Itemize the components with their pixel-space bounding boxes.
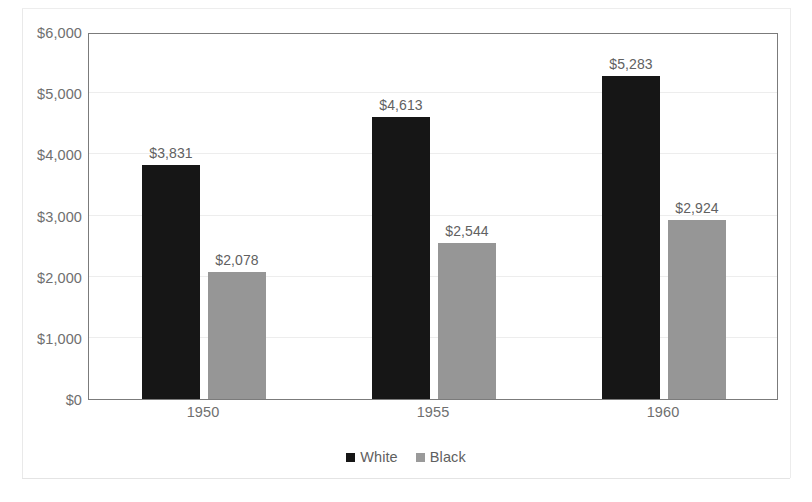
bar-value-label: $2,924 <box>675 200 718 216</box>
bar-chart: $0$1,000$2,000$3,000$4,000$5,000$6,000 $… <box>0 0 812 502</box>
legend-label: Black <box>430 449 466 465</box>
y-axis-tick-label: $3,000 <box>4 209 82 225</box>
x-axis-tick-label: 1950 <box>187 404 220 420</box>
bar-value-label: $4,613 <box>379 97 422 113</box>
page-edge-right <box>790 8 791 478</box>
x-axis-tick-label: 1960 <box>647 404 680 420</box>
bar-value-label: $2,544 <box>445 223 488 239</box>
page-edge-bottom <box>22 478 790 479</box>
bar-white-1950 <box>142 165 200 399</box>
y-axis-tick-label: $0 <box>4 392 82 408</box>
y-axis-tick-label: $2,000 <box>4 270 82 286</box>
gridline <box>89 92 777 93</box>
y-axis-tick-label: $5,000 <box>4 86 82 102</box>
bar-value-label: $5,283 <box>609 56 652 72</box>
x-axis-tick-label: 1955 <box>417 404 450 420</box>
legend-item-white[interactable]: White <box>346 449 398 465</box>
chart-legend: WhiteBlack <box>0 449 812 465</box>
legend-swatch-icon <box>416 453 425 462</box>
bar-value-label: $3,831 <box>149 145 192 161</box>
legend-item-black[interactable]: Black <box>416 449 466 465</box>
bar-black-1950 <box>208 272 266 399</box>
y-axis-tick-label: $1,000 <box>4 331 82 347</box>
y-axis-tick-label: $4,000 <box>4 147 82 163</box>
bar-white-1960 <box>602 76 660 399</box>
bar-black-1960 <box>668 220 726 399</box>
bar-black-1955 <box>438 243 496 399</box>
page-edge-top <box>22 8 790 9</box>
plot-area: $3,831$2,078$4,613$2,544$5,283$2,924 <box>88 33 778 400</box>
bar-value-label: $2,078 <box>215 252 258 268</box>
bar-white-1955 <box>372 117 430 399</box>
y-axis: $0$1,000$2,000$3,000$4,000$5,000$6,000 <box>0 33 82 400</box>
legend-swatch-icon <box>346 453 355 462</box>
y-axis-tick-label: $6,000 <box>4 25 82 41</box>
x-axis: 195019551960 <box>88 404 778 432</box>
legend-label: White <box>360 449 398 465</box>
